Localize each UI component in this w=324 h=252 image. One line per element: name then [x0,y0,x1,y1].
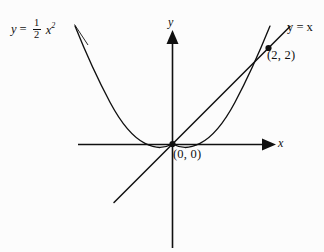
parabola-label-lhs: y [11,23,17,36]
intersection-point-label: (2, 2) [267,49,295,62]
fraction-numerator: 1 [33,18,40,29]
x-squared-term: x2 [46,23,56,37]
identity-line [114,27,290,203]
x-squared-exponent: 2 [51,21,55,30]
origin-point-label: (0, 0) [173,148,201,161]
x-axis-arrowhead [262,139,276,151]
parabola-equation-label: y = 1 2 x2 [11,18,55,41]
graph-figure: y = 1 2 x2 y = x (2, 2) (0, 0) x y [0,0,324,252]
fraction-denominator: 2 [33,30,40,41]
one-half-fraction: 1 2 [33,18,41,41]
y-axis-label: y [168,16,173,28]
parabola-label-equals: = [20,23,27,36]
line-equation-label: y = x [287,21,313,34]
y-axis-arrowhead [167,30,179,44]
x-axis-label: x [278,137,283,149]
